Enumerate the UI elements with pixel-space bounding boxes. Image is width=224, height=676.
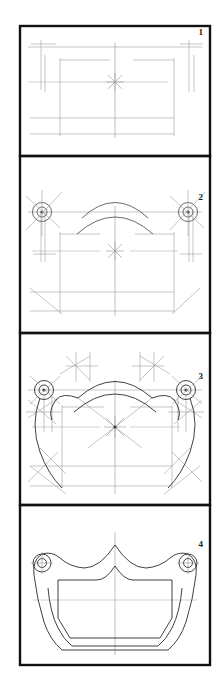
panel-4-fixing-hole-right [177,552,199,574]
construction-drawing-canvas: .frame { fill:none; stroke:#111111; stro… [0,0,224,676]
panel-3-centre-mark [104,416,126,438]
panel-4: 4 [20,505,210,665]
panel-1-centre-mark [106,73,124,91]
panel-4-fixing-hole-left [31,552,53,574]
panel-2: 2 [20,156,210,333]
panel-2-boss-left [26,190,62,236]
panel-2-number: 2 [199,192,204,202]
panel-1-construction-lines [28,40,203,138]
drawing-sheet: .frame { fill:none; stroke:#111111; stro… [0,0,224,676]
panel-4-number: 4 [199,539,204,549]
panel-3: 3 [20,333,210,505]
panel-1: 1 [20,26,210,156]
panel-2-centre-mark [106,242,124,260]
panel-1-number: 1 [199,27,204,37]
panel-3-number: 3 [199,371,204,381]
